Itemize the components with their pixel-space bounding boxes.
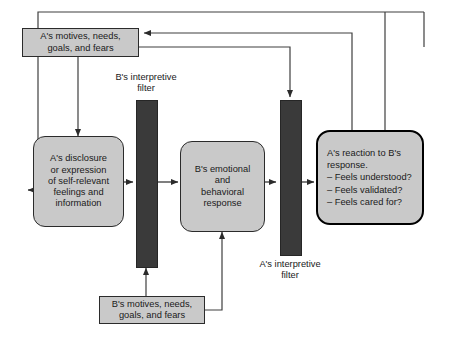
b-response-box[interactable]: B's emotional and behavioral response bbox=[180, 141, 265, 232]
wire-b-motives-to-response bbox=[205, 232, 222, 310]
a-motives-box[interactable]: A's motives, needs, goals, and fears bbox=[22, 28, 139, 57]
diagram-canvas: B's interpretive filter A's interpretive… bbox=[0, 0, 459, 340]
a-disclosure-box[interactable]: A's disclosure or expression of self-rel… bbox=[33, 136, 124, 227]
a-disclosure-label: A's disclosure or expression of self-rel… bbox=[45, 153, 112, 210]
a-reaction-label: A's reaction to B's response. – Feels un… bbox=[318, 147, 422, 208]
b-response-label: B's emotional and behavioral response bbox=[192, 164, 254, 209]
b-interpretive-filter-caption: B's interpretive filter bbox=[96, 72, 196, 95]
a-interpretive-filter-bar bbox=[280, 100, 302, 256]
a-interpretive-filter-caption: A's interpretive filter bbox=[240, 259, 340, 282]
b-motives-label: B's motives, needs, goals, and fears bbox=[109, 299, 195, 322]
b-interpretive-filter-bar bbox=[136, 100, 158, 268]
b-motives-box[interactable]: B's motives, needs, goals, and fears bbox=[99, 296, 205, 324]
a-reaction-box[interactable]: A's reaction to B's response. – Feels un… bbox=[316, 130, 424, 225]
a-motives-label: A's motives, needs, goals, and fears bbox=[37, 31, 123, 54]
